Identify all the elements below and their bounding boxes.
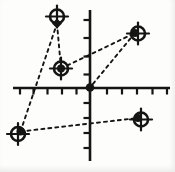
dashed-connector-line: [90, 33, 135, 88]
target-top-left-point-dot: [52, 19, 62, 29]
dashed-connector-line: [61, 33, 135, 69]
target-bottom-right-point-dot: [134, 114, 142, 122]
dashed-connector-line: [21, 24, 58, 132]
target-top-right-point-dot: [131, 29, 139, 37]
target-mid-left-point-dot: [57, 65, 65, 73]
target-bottom-left-point-dot: [17, 128, 25, 136]
dashed-connector-line: [21, 118, 139, 132]
scanned-figure-page: [0, 0, 175, 172]
coordinate-plane: [0, 0, 175, 172]
origin-point-dot: [86, 83, 95, 92]
